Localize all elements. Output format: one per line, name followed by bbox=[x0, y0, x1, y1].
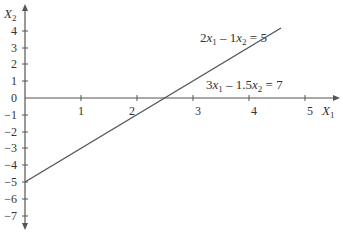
svg-text:5: 5 bbox=[307, 104, 313, 118]
chart-canvas: 4 3 2 1 0 −1 −2 −3 −4 −5 −6 −7 1 2 3 4 5… bbox=[0, 0, 343, 232]
svg-text:−3: −3 bbox=[4, 141, 17, 155]
x-tick-labels: 1 2 3 4 5 bbox=[78, 104, 313, 118]
equation-label-2: 3x1 – 1.5x2 = 7 bbox=[206, 77, 283, 94]
svg-text:−7: −7 bbox=[4, 209, 17, 223]
svg-text:−4: −4 bbox=[4, 158, 17, 172]
svg-text:0: 0 bbox=[11, 91, 17, 105]
x-axis-label: X1 bbox=[321, 103, 334, 120]
svg-text:4: 4 bbox=[11, 24, 17, 38]
svg-text:4: 4 bbox=[251, 104, 257, 118]
y-axis-label: X2 bbox=[3, 6, 16, 23]
svg-text:1: 1 bbox=[11, 74, 17, 88]
svg-text:−6: −6 bbox=[4, 192, 17, 206]
y-axis-arrow-up-icon bbox=[22, 4, 28, 11]
svg-text:−1: −1 bbox=[4, 108, 17, 122]
chart: 4 3 2 1 0 −1 −2 −3 −4 −5 −6 −7 1 2 3 4 5… bbox=[0, 0, 343, 232]
y-axis-arrow-down-icon bbox=[22, 223, 28, 230]
svg-text:−5: −5 bbox=[4, 175, 17, 189]
svg-text:1: 1 bbox=[78, 104, 84, 118]
svg-text:3: 3 bbox=[11, 41, 17, 55]
equation-label-1: 2x1 – 1x2 = 5 bbox=[200, 30, 267, 47]
svg-text:−2: −2 bbox=[4, 125, 17, 139]
svg-text:2: 2 bbox=[11, 57, 17, 71]
svg-text:3: 3 bbox=[195, 104, 201, 118]
constraint-line-eq1 bbox=[25, 28, 281, 182]
y-tick-labels: 4 3 2 1 0 −1 −2 −3 −4 −5 −6 −7 bbox=[4, 24, 17, 223]
x-axis-arrow-right-icon bbox=[333, 95, 340, 101]
